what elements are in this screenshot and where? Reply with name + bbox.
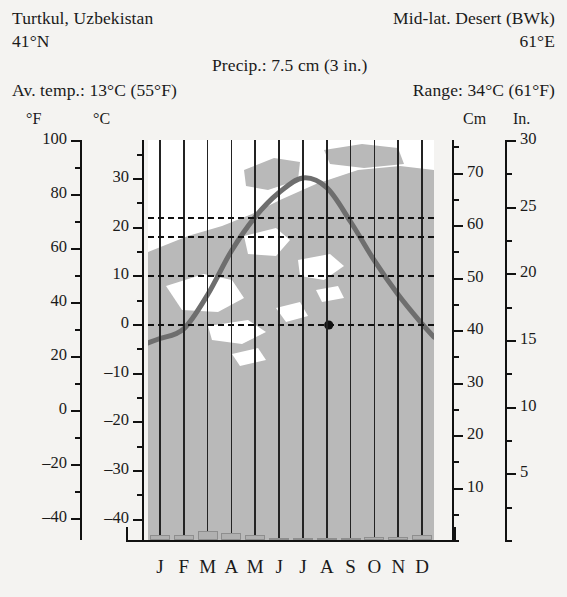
axis-tick-label: 70 (467, 164, 484, 181)
axis-tick-minor (75, 221, 82, 223)
axis-tick-major (452, 225, 463, 227)
axis-tick-minor (137, 251, 144, 253)
axis-tick-minor (452, 409, 459, 411)
month-gridline (159, 140, 161, 540)
climate-classification: Mid-lat. Desert (BWk) (393, 8, 555, 29)
plot-area (148, 140, 434, 540)
month-label: J (290, 556, 316, 578)
axis-tick-minor (452, 199, 459, 201)
axis-tick-label: 40 (51, 293, 68, 310)
precipitation-bar (221, 533, 241, 540)
axis-tick-major (452, 173, 463, 175)
average-temperature-label: Av. temp.: 13°C (55°F) (12, 80, 177, 101)
axis-tick-label: 0 (121, 315, 129, 332)
axis-tick-major (71, 356, 82, 358)
inches-axis: 30252015105 (505, 140, 517, 540)
month-label: O (361, 556, 387, 578)
month-gridline (231, 140, 233, 540)
axis-tick-major (133, 324, 144, 326)
axis-tick-minor (137, 446, 144, 448)
axis-tick-minor (137, 397, 144, 399)
reference-line (148, 275, 434, 277)
axis-tick-label: 30 (467, 374, 484, 391)
month-gridline (350, 140, 352, 540)
baseline-tick-left (126, 527, 128, 541)
axis-tick-label: 20 (520, 264, 537, 281)
axis-tick-minor (137, 154, 144, 156)
temperature-curve-path (148, 178, 434, 343)
axis-tick-minor (452, 356, 459, 358)
axis-tick-label: –30 (104, 461, 129, 478)
axis-tick-major (133, 178, 144, 180)
axis-tick-label: 5 (520, 464, 528, 481)
axis-tick-label: 50 (467, 269, 484, 286)
longitude-label: 61°E (519, 31, 555, 52)
month-label: D (409, 556, 435, 578)
month-label: A (218, 556, 244, 578)
axis-tick-major (133, 227, 144, 229)
axis-tick-label: 60 (51, 239, 68, 256)
axis-tick-minor (505, 507, 512, 509)
axis-tick-label: –20 (104, 412, 129, 429)
precipitation-bar (198, 531, 218, 540)
axis-tick-minor (75, 275, 82, 277)
axis-tick-minor (452, 514, 459, 516)
axis-tick-major (71, 464, 82, 466)
axis-tick-major (505, 473, 516, 475)
axis-tick-major (505, 207, 516, 209)
axis-tick-major (452, 488, 463, 490)
axis-tick-minor (137, 300, 144, 302)
axis-tick-major (505, 140, 516, 142)
month-gridline (421, 140, 423, 540)
axis-tick-minor (505, 440, 512, 442)
axis-tick-label: 40 (467, 321, 484, 338)
axis-tick-minor (452, 304, 459, 306)
axis-tick-major (133, 421, 144, 423)
axis-tick-label: 20 (113, 218, 130, 235)
axis-tick-label: 20 (51, 347, 68, 364)
month-label: F (171, 556, 197, 578)
month-gridline (278, 140, 280, 540)
fahrenheit-axis-caption: °F (26, 110, 41, 128)
month-label: J (147, 556, 173, 578)
axis-spine (80, 140, 82, 540)
axis-tick-minor (452, 146, 459, 148)
axis-tick-label: 30 (520, 131, 537, 148)
axis-tick-minor (75, 167, 82, 169)
centimeters-axis: 70605040302010 (452, 140, 464, 540)
axis-tick-major (133, 470, 144, 472)
axis-tick-major (133, 519, 144, 521)
axis-tick-minor (505, 240, 512, 242)
axis-tick-minor (505, 540, 512, 542)
axis-tick-minor (505, 307, 512, 309)
celsius-axis: 3020100–10–20–30–40 (132, 140, 144, 540)
total-precipitation-label: Precip.: 7.5 cm (3 in.) (212, 55, 367, 76)
baseline-tick-right (454, 527, 456, 541)
month-label: M (242, 556, 268, 578)
axis-tick-major (133, 373, 144, 375)
axis-tick-major (452, 330, 463, 332)
header: Turtkul, Uzbekistan Mid-lat. Desert (BWk… (0, 0, 567, 112)
axis-tick-label: 25 (520, 198, 537, 215)
month-gridline (302, 140, 304, 540)
axis-tick-label: 15 (520, 331, 537, 348)
axis-tick-major (505, 407, 516, 409)
axis-tick-label: –20 (42, 455, 67, 472)
axis-tick-minor (505, 173, 512, 175)
month-label: J (266, 556, 292, 578)
axis-tick-label: –40 (42, 509, 67, 526)
axis-tick-major (71, 302, 82, 304)
axis-tick-minor (137, 202, 144, 204)
axis-tick-label: 100 (42, 131, 67, 148)
axis-tick-minor (137, 494, 144, 496)
axis-tick-minor (505, 373, 512, 375)
temperature-curve (148, 140, 434, 540)
month-label: N (385, 556, 411, 578)
axis-tick-label: 20 (467, 426, 484, 443)
latitude-label: 41°N (12, 31, 50, 52)
axis-tick-label: –40 (104, 510, 129, 527)
axis-spine (142, 140, 144, 540)
month-gridline (326, 140, 328, 540)
axis-tick-label: 80 (51, 185, 68, 202)
axis-tick-minor (75, 383, 82, 385)
